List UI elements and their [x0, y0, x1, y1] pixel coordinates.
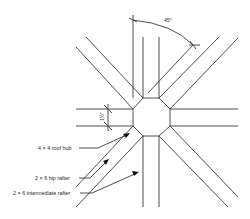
lower-right-hip-rafter: [159, 126, 238, 207]
hub-leader: 4 × 4 roof hub: [38, 133, 130, 151]
width-label: 1½": [99, 112, 105, 121]
width-dimension: 1½": [99, 104, 112, 131]
lower-left-hip-rafter: [76, 126, 143, 207]
intermediate-rafter-leader: 2 × 6 intermediate rafter: [13, 171, 139, 196]
bottom-intermediate-rafter: [143, 136, 159, 207]
hub-label: 4 × 4 roof hub: [38, 145, 71, 151]
right-intermediate-rafter: [170, 109, 238, 126]
roof-hub-diagram: 45° 1½" 4 × 4 roof hub 2 × 6 hip rafter …: [0, 0, 250, 219]
upper-right-hip-rafter: [159, 37, 238, 109]
top-intermediate-rafter: [143, 37, 159, 98]
roof-hub-octagon: [133, 98, 170, 136]
angle-dimension: 45°: [129, 15, 200, 98]
angle-label: 45°: [164, 17, 172, 23]
hip-rafter-leader: 2 × 6 hip rafter: [35, 159, 109, 181]
hip-rafter-label: 2 × 6 hip rafter: [35, 175, 70, 181]
intermediate-rafter-label: 2 × 6 intermediate rafter: [13, 190, 71, 196]
